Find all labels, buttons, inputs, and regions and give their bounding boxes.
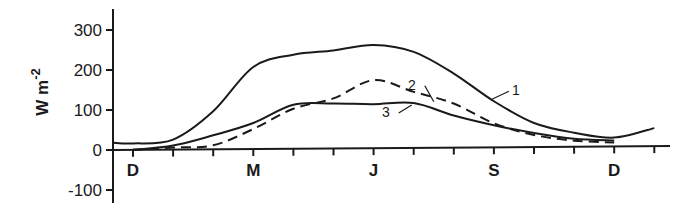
x-tick-label: J [369, 161, 378, 180]
y-tick-label: 300 [74, 21, 102, 40]
y-axis-label-text: W m-2 [28, 68, 52, 115]
y-tick-label: -100 [68, 181, 102, 200]
series-label-3: 3 [382, 104, 390, 120]
y-axis-label: W m-2 [28, 68, 52, 115]
x-tick-label: D [608, 161, 620, 180]
x-tick-label: M [246, 161, 260, 180]
annotation-arrow [492, 91, 509, 99]
x-axis-line [113, 146, 670, 150]
x-tick-label: S [488, 161, 499, 180]
y-tick-label: 200 [74, 61, 102, 80]
x-ticks: DMJSD [127, 146, 654, 180]
series-layer [113, 45, 654, 150]
y-tick-label: 0 [93, 141, 102, 160]
series-2-line [133, 80, 614, 150]
y-ticks: 3002001000-100 [68, 21, 113, 200]
annotation-layer: 123 [382, 77, 520, 120]
series-label-2: 2 [408, 77, 416, 93]
series-1-line [113, 45, 654, 144]
annotation-arrow [399, 105, 412, 113]
annotation-arrow [425, 86, 434, 102]
chart: W m-2 3002001000-100 DMJSD 123 [0, 0, 686, 219]
series-label-1: 1 [512, 82, 520, 98]
y-tick-label: 100 [74, 101, 102, 120]
x-tick-label: D [127, 161, 139, 180]
